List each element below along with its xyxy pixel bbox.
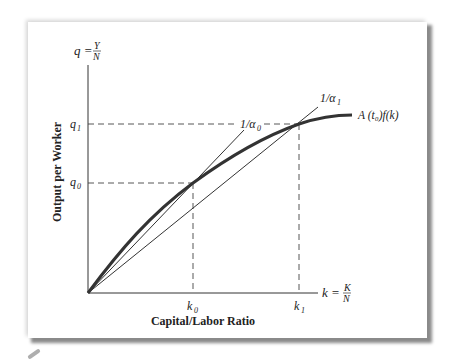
ray-alpha1 <box>88 107 318 293</box>
production-function-diagram: q = Y N q 1 q 0 Output per Worker k 0 k … <box>0 0 455 363</box>
tick-k1-base: k <box>294 299 300 313</box>
x-axis-title: Capital/Labor Ratio <box>151 314 255 328</box>
tick-k0-base: k <box>187 299 193 313</box>
y-var-lhs: q = <box>74 43 93 58</box>
tick-q0-sub: 0 <box>77 182 81 191</box>
ray-alpha1-label: 1/α <box>320 91 336 105</box>
tick-q0-base: q <box>70 175 76 189</box>
y-axis-title: Output per Worker <box>50 121 64 222</box>
x-var-lhs: k = <box>322 285 340 300</box>
x-var-num: K <box>343 282 352 293</box>
ray-alpha0 <box>88 130 244 293</box>
y-var-den: N <box>92 51 101 62</box>
ray-alpha0-label: 1/α <box>240 117 256 131</box>
production-curve <box>88 115 352 293</box>
x-var-den: N <box>342 293 351 304</box>
ray-alpha0-sub: 0 <box>257 124 261 133</box>
y-var-num: Y <box>94 40 101 51</box>
ray-alpha1-sub: 1 <box>337 98 341 107</box>
tick-q1-base: q <box>70 117 76 131</box>
curve-label: A (t₀)f(k) <box>357 109 399 122</box>
tick-q1-sub: 1 <box>77 124 81 133</box>
tick-k1-sub: 1 <box>301 306 305 315</box>
